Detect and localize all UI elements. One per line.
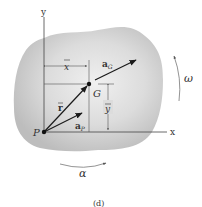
alpha-label: α bbox=[79, 167, 87, 180]
omega-arc bbox=[174, 56, 180, 101]
point-g bbox=[87, 82, 91, 86]
point-p bbox=[42, 130, 46, 134]
y-axis-label: y bbox=[40, 7, 47, 17]
point-p-label: P bbox=[32, 127, 40, 138]
point-g-label: G bbox=[93, 88, 101, 99]
x-bar-label: x bbox=[64, 62, 69, 72]
figure-caption: (d) bbox=[93, 199, 104, 207]
y-bar-label: y bbox=[104, 104, 111, 114]
rigid-body-diagram: y x x y r aP aG G P ω α (d) bbox=[0, 0, 202, 207]
x-axis-label: x bbox=[170, 127, 175, 137]
omega-label: ω bbox=[184, 72, 193, 85]
r-bar-label: r bbox=[58, 103, 63, 113]
